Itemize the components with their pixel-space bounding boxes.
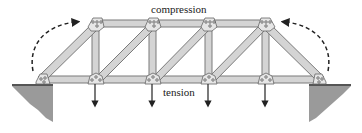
right-abutment bbox=[309, 84, 351, 122]
compression-label: compression bbox=[151, 4, 207, 15]
tension-label: tension bbox=[163, 87, 195, 98]
truss-bridge-diagram bbox=[0, 0, 362, 133]
truss-members bbox=[38, 20, 324, 83]
left-abutment bbox=[12, 84, 53, 122]
